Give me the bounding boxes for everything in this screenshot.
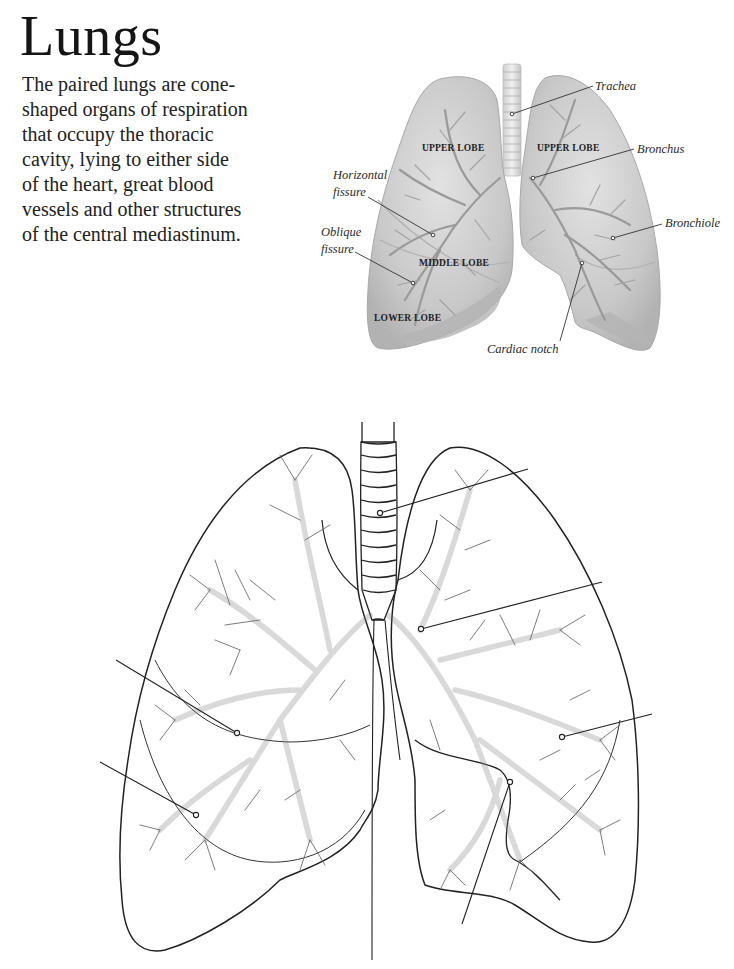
worksheet-leader-lines (100, 469, 652, 924)
blank-label-line-cardiac-notch (462, 779, 513, 924)
worksheet-right-lung (391, 447, 638, 942)
blank-label-line-bronchus (418, 582, 602, 632)
worksheet-left-lung (120, 448, 384, 951)
worksheet-bronchial-tree (160, 480, 600, 870)
blank-label-line-trachea (377, 469, 528, 516)
worksheet-trachea (361, 422, 400, 960)
blank-lung-worksheet (0, 0, 734, 969)
